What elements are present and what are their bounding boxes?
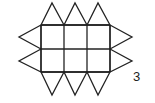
right-triangle (110, 25, 132, 49)
top-triangle (41, 3, 64, 25)
rectangle-grid (41, 25, 110, 72)
bottom-triangle (64, 72, 87, 95)
top-triangle (87, 3, 110, 25)
bottom-triangle (87, 72, 110, 95)
top-triangles (41, 3, 110, 25)
right-triangle (110, 49, 132, 72)
bottom-triangles (41, 72, 110, 95)
top-triangle (64, 3, 87, 25)
left-triangle (19, 49, 41, 72)
net-diagram (0, 0, 155, 103)
right-triangles (110, 25, 132, 72)
left-triangles (19, 25, 41, 72)
bottom-triangle (41, 72, 64, 95)
left-triangle (19, 25, 41, 49)
figure-number-label: 3 (133, 70, 140, 83)
